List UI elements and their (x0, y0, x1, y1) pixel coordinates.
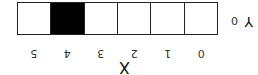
x-tick: 2 (118, 47, 152, 60)
y-tick: 0 (231, 14, 238, 27)
grid-cell-filled (50, 3, 83, 34)
grid-cell (184, 3, 217, 34)
x-tick: 4 (51, 47, 85, 60)
x-axis-label: X (119, 58, 130, 75)
cell-row (17, 2, 218, 35)
x-tick: 5 (17, 47, 51, 60)
grid-cell (18, 3, 50, 34)
grid-cell (84, 3, 117, 34)
x-tick: 1 (151, 47, 185, 60)
grid-cell (117, 3, 150, 34)
x-tick: 3 (84, 47, 118, 60)
grid-cell (150, 3, 183, 34)
x-tick: 0 (185, 47, 219, 60)
y-axis-label: Y (244, 14, 253, 30)
grid-diagram: X 0 1 2 3 4 5 Y 0 (0, 0, 258, 75)
